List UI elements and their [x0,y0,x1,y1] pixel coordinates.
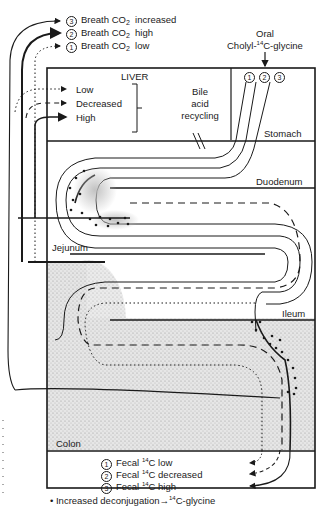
number-2-icon: 2 [259,72,270,83]
number-1-icon: 1 [244,72,255,83]
bullet-icon: • [50,495,53,506]
organ-ileum: Ileum [282,308,305,319]
liver-level-high: High [76,112,96,123]
footnote: • Increased deconjugation→14C-glycine [50,495,215,506]
number-3-icon: 3 [101,483,112,494]
oral-label: Oral [256,28,274,39]
number-1-icon: 1 [66,42,77,53]
arrow-right-icon: → [160,495,170,506]
liver-bracket [132,84,142,132]
breath-item-2: 2Breath CO2 high [66,27,153,40]
recycling-line-3: recycling [176,110,224,121]
liver-level-low: Low [76,84,93,95]
recycling-line-1: Bile [176,86,224,97]
number-3-icon: 3 [274,72,285,83]
fecal-item-3: 3Fecal 14C high [101,481,176,494]
number-3-icon: 3 [66,16,77,27]
fecal-arrows [250,450,290,486]
organ-duodenum: Duodenum [256,176,302,187]
organ-colon: Colon [56,438,81,449]
liver-level-decreased: Decreased [76,98,122,109]
oral-markers: 123 [244,70,289,83]
deconjugation-zone-duodenum [69,166,139,230]
liver-title: LIVER [121,71,148,82]
number-2-icon: 2 [66,29,77,40]
recycling-line-2: acid [176,98,224,109]
organ-stomach: Stomach [264,128,302,139]
breath-item-3: 3Breath CO2 increased [66,14,176,27]
oral-compound-label: Cholyl-14C-glycine [227,40,303,51]
organ-jejunum: Jejunum [52,242,88,253]
breath-item-1: 1Breath CO2 low [66,40,149,53]
